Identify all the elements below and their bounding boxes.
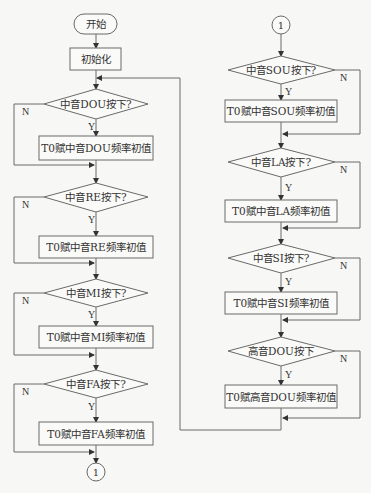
decision-label: 中音DOU按下? bbox=[60, 98, 132, 110]
action-mid-fa: T0赋中音FA频率初值 bbox=[39, 422, 153, 445]
no-label: N bbox=[340, 260, 347, 271]
connector-out: 1 bbox=[87, 463, 105, 481]
no-label: N bbox=[22, 295, 29, 306]
action-label: T0赋中音SI频率初值 bbox=[233, 297, 329, 309]
decision-label: 中音RE按下? bbox=[65, 191, 127, 203]
yes-label: Y bbox=[285, 86, 292, 97]
action-label: T0赋中音RE频率初值 bbox=[46, 241, 146, 253]
no-label: N bbox=[340, 72, 347, 83]
no-label: N bbox=[340, 164, 347, 175]
start-label: 开始 bbox=[86, 18, 107, 30]
yes-label: Y bbox=[285, 369, 292, 380]
action-mid-dou: T0赋中音DOU频率初值 bbox=[39, 136, 153, 160]
init-box: 初始化 bbox=[70, 48, 121, 70]
action-label: T0赋中音SOU频率初值 bbox=[227, 105, 336, 117]
decision-mid-fa: 中音FA按下? bbox=[44, 370, 148, 398]
decision-label: 中音FA按下? bbox=[66, 378, 126, 390]
yes-label: Y bbox=[88, 214, 95, 225]
decision-label: 中音LA按下? bbox=[251, 156, 312, 168]
action-mid-sou: T0赋中音SOU频率初值 bbox=[225, 100, 337, 122]
no-label: N bbox=[22, 199, 29, 210]
action-label: T0赋高音DOU频率初值 bbox=[226, 391, 337, 403]
action-mid-mi: T0赋中音MI频率初值 bbox=[39, 326, 153, 348]
start-terminal: 开始 bbox=[74, 14, 117, 34]
decision-mid-re: 中音RE按下? bbox=[44, 183, 148, 212]
decision-mid-sou: 中音SOU按下? bbox=[228, 56, 335, 84]
decision-label: 中音SOU按下? bbox=[246, 64, 317, 76]
yes-label: Y bbox=[88, 309, 95, 320]
decision-high-dou: 高音DOU按下 bbox=[228, 337, 335, 366]
connector-label: 1 bbox=[93, 467, 99, 478]
decision-mid-mi: 中音MI按下? bbox=[44, 279, 148, 307]
action-mid-si: T0赋中音SI频率初值 bbox=[225, 292, 337, 314]
no-label: N bbox=[22, 106, 29, 117]
action-high-dou: T0赋高音DOU频率初值 bbox=[225, 385, 337, 408]
decision-mid-la: 中音LA按下? bbox=[228, 148, 335, 177]
decision-label: 高音DOU按下 bbox=[248, 345, 314, 357]
action-label: T0赋中音DOU频率初值 bbox=[41, 142, 152, 154]
yes-label: Y bbox=[285, 182, 292, 193]
init-label: 初始化 bbox=[81, 53, 112, 65]
action-label: T0赋中音LA频率初值 bbox=[232, 205, 331, 217]
decision-mid-si: 中音SI按下? bbox=[228, 244, 335, 273]
decision-label: 中音SI按下? bbox=[253, 252, 310, 264]
connector-label: 1 bbox=[278, 20, 284, 31]
decision-mid-dou: 中音DOU按下? bbox=[44, 89, 148, 119]
no-label: N bbox=[340, 353, 347, 364]
connector-in: 1 bbox=[272, 16, 290, 34]
no-label: N bbox=[22, 386, 29, 397]
yes-label: Y bbox=[88, 121, 95, 132]
yes-label: Y bbox=[285, 276, 292, 287]
flowchart: 开始 初始化 中音DOU按下? Y T0赋中音DOU频率初值 N 中音RE按下?… bbox=[0, 0, 371, 493]
action-mid-la: T0赋中音LA频率初值 bbox=[225, 200, 337, 222]
action-label: T0赋中音FA频率初值 bbox=[47, 428, 146, 440]
action-mid-re: T0赋中音RE频率初值 bbox=[39, 236, 153, 258]
decision-label: 中音MI按下? bbox=[66, 287, 127, 299]
yes-label: Y bbox=[88, 401, 95, 412]
action-label: T0赋中音MI频率初值 bbox=[47, 331, 147, 343]
